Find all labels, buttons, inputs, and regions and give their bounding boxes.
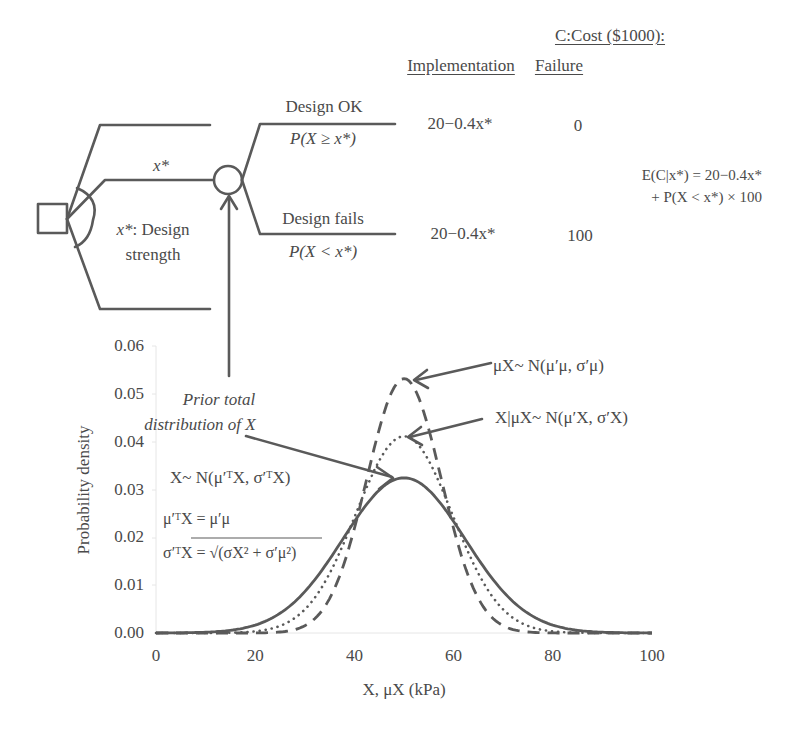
- y-tick-label: 0.04: [114, 433, 144, 450]
- column-header-implementation: Implementation: [407, 57, 515, 74]
- branch-label-xstar: x*: [153, 157, 169, 174]
- x-tick-label: 0: [152, 647, 161, 664]
- ok-implementation-cost: 20−0.4x*: [428, 115, 493, 132]
- x-tick-label: 60: [445, 647, 462, 664]
- ok-failure-cost: 0: [574, 117, 583, 134]
- expected-cost-line1: E(C|x*) = 20−0.4x*: [642, 168, 762, 183]
- x-tick-label: 80: [544, 647, 561, 664]
- prior-total-label-line1: Prior total: [183, 391, 255, 408]
- outcome-ok-probability: P(X ≥ x*): [290, 130, 356, 147]
- figure-canvas: [0, 0, 800, 731]
- decision-label-line2: strength: [126, 246, 181, 263]
- outcome-fails-label: Design fails: [282, 210, 364, 227]
- decision-label-text: : Design: [132, 220, 189, 239]
- conditional-distribution-formula: X|μX~ N(μ′X, σ′X): [495, 409, 628, 426]
- y-tick-label: 0.00: [114, 624, 144, 641]
- curve-dotted: [156, 436, 652, 633]
- decision-branch-top: [67, 125, 210, 219]
- y-tick-label: 0.01: [114, 576, 144, 593]
- cost-header-title: C:Cost ($1000):: [555, 27, 665, 44]
- prior-total-label-line2: distribution of X: [144, 416, 255, 433]
- outcome-ok-label: Design OK: [286, 98, 363, 115]
- y-tick-label: 0.02: [114, 528, 144, 545]
- x-axis-label: X, μX (kPa): [362, 681, 445, 698]
- decision-branch-xstar: [67, 180, 213, 219]
- total-distribution-formula: X~ N(μ′ᵀX, σ′ᵀX): [170, 469, 290, 486]
- arrow-mu-dist: [416, 363, 491, 380]
- chance-node-circle: [214, 166, 242, 194]
- decision-variable: x*: [116, 220, 132, 239]
- decision-node-square: [38, 204, 67, 233]
- mu-distribution-formula: μX~ N(μ′μ, σ′μ): [493, 357, 604, 374]
- y-tick-label: 0.05: [114, 385, 144, 402]
- y-axis-label: Probability density: [74, 426, 94, 555]
- y-tick-label: 0.03: [114, 481, 144, 498]
- column-header-failure: Failure: [535, 57, 583, 74]
- fails-implementation-cost: 20−0.4x*: [431, 225, 496, 242]
- x-tick-label: 40: [346, 647, 363, 664]
- x-tick-label: 20: [247, 647, 264, 664]
- fails-failure-cost: 100: [567, 227, 593, 244]
- total-sigma-formula: σ′ᵀX = √(σX² + σ′μ²): [163, 545, 296, 561]
- decision-label-line1: x*: Design: [116, 221, 189, 238]
- x-tick-label: 100: [639, 647, 665, 664]
- outcome-fails-probability: P(X < x*): [289, 243, 357, 260]
- expected-cost-line2: + P(X < x*) × 100: [651, 190, 762, 205]
- y-tick-label: 0.06: [114, 337, 144, 354]
- total-mean-formula: μ′ᵀX = μ′μ: [163, 511, 230, 527]
- continuous-decision-arc: [75, 188, 95, 247]
